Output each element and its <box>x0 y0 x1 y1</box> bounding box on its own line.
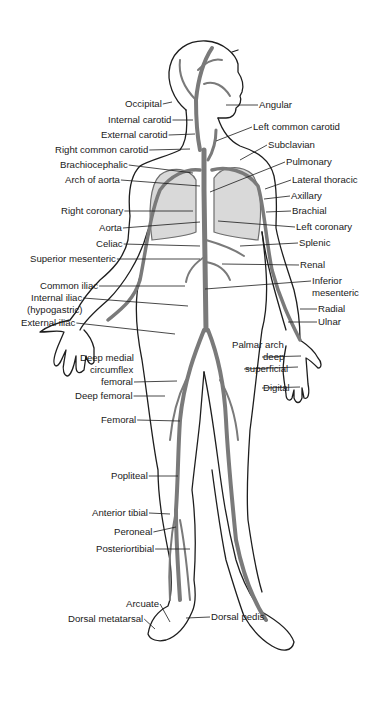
label-subclavian: Subclavian <box>268 139 315 150</box>
leader-brachiocephalic <box>129 165 193 173</box>
label-pulmonary: Pulmonary <box>286 156 332 167</box>
label-deep-medial-circumflex: Deep medial <box>80 352 134 363</box>
label-internal-iliac-alt: (hypogastric) <box>27 304 82 315</box>
right-hand <box>283 340 321 403</box>
leader-external-carotid <box>169 134 195 135</box>
label-dorsal-pedis: Dorsal pedis <box>211 611 264 622</box>
label-deep-medial-circumflex-3: femoral <box>101 376 133 387</box>
leader-right-common-carotid <box>149 149 190 150</box>
label-dorsal-metatarsal: Dorsal metatarsal <box>68 613 143 624</box>
leader-axillary <box>264 196 290 199</box>
label-palmar-arch-superficial: superficial <box>245 363 288 374</box>
leader-left-common-carotid <box>216 127 252 141</box>
anatomy-diagram <box>0 0 376 706</box>
leader-lateral-thoracic <box>265 180 291 189</box>
label-arcuate: Arcuate <box>126 598 159 609</box>
label-occipital: Occipital <box>125 98 162 109</box>
leader-deep-medial-circumflex-3 <box>134 381 177 382</box>
label-ulnar: Ulnar <box>318 316 341 327</box>
label-external-carotid: External carotid <box>101 129 168 140</box>
label-internal-iliac: Internal iliac <box>31 292 82 303</box>
label-angular: Angular <box>259 99 292 110</box>
label-deep-femoral: Deep femoral <box>75 390 133 401</box>
label-digital: Digital <box>263 382 290 393</box>
label-inferior-mesenteric: Inferior <box>312 275 342 286</box>
label-deep-medial-circumflex-2: circumflex <box>90 364 133 375</box>
leader-brachial <box>266 211 291 212</box>
label-peroneal: Peroneal <box>114 526 152 537</box>
label-left-coronary: Left coronary <box>296 221 352 232</box>
leader-internal-iliac <box>83 298 188 306</box>
label-palmar-arch: Palmar arch <box>232 339 284 350</box>
leader-occipital <box>163 102 172 104</box>
label-palmar-arch-deep: deep <box>263 351 284 362</box>
label-arch-of-aorta: Arch of aorta <box>65 174 120 185</box>
leader-renal <box>222 264 299 265</box>
label-popliteal: Popliteal <box>111 470 148 481</box>
label-femoral: Femoral <box>101 414 136 425</box>
label-common-iliac: Common iliac <box>40 280 98 291</box>
label-superior-mesenteric: Superior mesenteric <box>30 253 116 264</box>
leader-inferior-mesenteric <box>205 281 311 289</box>
label-axillary: Axillary <box>291 190 322 201</box>
label-right-coronary: Right coronary <box>61 205 123 216</box>
label-anterior-tibial: Anterior tibial <box>92 507 148 518</box>
label-brachial: Brachial <box>292 205 327 216</box>
label-splenic: Splenic <box>299 237 330 248</box>
label-aorta: Aorta <box>99 222 122 233</box>
label-posterior-tibial: Posteriortibial <box>96 543 154 554</box>
right-leg-vessel <box>176 330 204 600</box>
label-left-common-carotid: Left common carotid <box>253 121 340 132</box>
label-right-common-carotid: Right common carotid <box>55 144 148 155</box>
label-celiac: Celiac <box>96 238 123 249</box>
label-renal: Renal <box>300 259 325 270</box>
leader-anterior-tibial <box>149 513 170 514</box>
leader-celiac <box>124 244 200 246</box>
label-inferior-mesenteric-2: mesenteric <box>312 287 359 298</box>
leader-external-iliac <box>76 323 175 334</box>
left-lung <box>214 168 260 240</box>
label-radial: Radial <box>318 303 345 314</box>
right-lung <box>150 169 196 240</box>
label-brachiocephalic: Brachiocephalic <box>60 159 128 170</box>
label-lateral-thoracic: Lateral thoracic <box>292 174 358 185</box>
leader-arcuate <box>160 604 170 622</box>
label-internal-carotid: Internal carotid <box>108 114 171 125</box>
label-external-iliac: External iliac <box>21 317 75 328</box>
